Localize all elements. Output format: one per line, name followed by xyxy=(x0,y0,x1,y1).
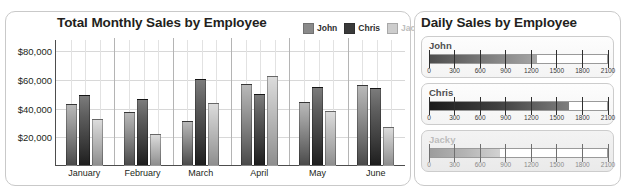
x-axis-tick-label: January xyxy=(55,168,113,178)
x-axis-tick-label: May xyxy=(288,168,346,178)
gauge-tick-label: 1200 xyxy=(524,67,538,74)
legend-swatch-icon xyxy=(303,23,314,34)
gauge-tick xyxy=(505,97,506,115)
bar-jacky-march[interactable] xyxy=(208,103,219,166)
gauge-tick-label: 900 xyxy=(500,161,511,168)
bar-john-january[interactable] xyxy=(66,104,77,166)
x-axis-tick-label: April xyxy=(230,168,288,178)
gauge-tick xyxy=(429,144,430,162)
gauge-tick-label: 0 xyxy=(427,67,431,74)
page-title: Total Monthly Sales by Employee xyxy=(57,15,267,30)
gauge-tick xyxy=(608,50,609,68)
bar-group-may xyxy=(288,40,346,166)
gauge-tick-label: 0 xyxy=(427,114,431,121)
legend-swatch-icon xyxy=(387,23,398,34)
gauge-tick-label: 900 xyxy=(500,114,511,121)
gauge-tick-label: 1200 xyxy=(524,114,538,121)
bar-jacky-june[interactable] xyxy=(383,127,394,166)
gauge-tick xyxy=(454,50,455,68)
gauge-tick-label: 900 xyxy=(500,67,511,74)
gauge-tick xyxy=(454,144,455,162)
gauge-tick-label: 1500 xyxy=(550,114,564,121)
gauge-tick xyxy=(429,97,430,115)
gauge-tick xyxy=(556,97,557,115)
gauge-tick-label: 1800 xyxy=(575,114,589,121)
bar-group-january xyxy=(55,40,113,166)
gauge-tick xyxy=(505,144,506,162)
gauge-card-chris[interactable]: Chris 03006009001200150018002100 xyxy=(421,83,614,125)
gauge-tick-labels-john: 03006009001200150018002100 xyxy=(429,67,608,77)
bar-group-february xyxy=(113,40,171,166)
bar-group-june xyxy=(347,40,405,166)
gauge-tick-label: 600 xyxy=(475,67,486,74)
bar-jacky-april[interactable] xyxy=(267,76,278,166)
gauge-tick xyxy=(608,144,609,162)
y-axis: $20,000$40,000$60,000$80,000 xyxy=(0,40,52,166)
bar-john-march[interactable] xyxy=(182,121,193,166)
bar-jacky-february[interactable] xyxy=(150,134,161,166)
bar-chris-may[interactable] xyxy=(312,87,323,166)
gauge-ticks-john xyxy=(429,50,608,68)
bar-groups xyxy=(55,40,405,166)
bar-chris-march[interactable] xyxy=(195,79,206,166)
gauge-ticks-chris xyxy=(429,97,608,115)
legend-label: Chris xyxy=(358,24,380,33)
gauge-tick-labels-jacky: 03006009001200150018002100 xyxy=(429,161,608,171)
bar-group-april xyxy=(230,40,288,166)
gauge-tick xyxy=(582,50,583,68)
gauge-tick-label: 2100 xyxy=(601,67,615,74)
gauge-tick-label: 1500 xyxy=(550,67,564,74)
gauge-tick xyxy=(582,97,583,115)
y-axis-tick-label: $20,000 xyxy=(0,132,52,143)
gauge-tick-label: 0 xyxy=(427,161,431,168)
gauge-tick xyxy=(454,97,455,115)
gauge-tick xyxy=(556,50,557,68)
x-axis-tick-label: June xyxy=(347,168,405,178)
gauge-panel-title: Daily Sales by Employee xyxy=(421,15,577,30)
gauge-ticks-jacky xyxy=(429,144,608,162)
gauge-tick xyxy=(608,97,609,115)
gauge-tick-label: 300 xyxy=(449,67,460,74)
bar-john-april[interactable] xyxy=(241,84,252,166)
bar-john-june[interactable] xyxy=(357,85,368,166)
bar-chris-april[interactable] xyxy=(254,94,265,166)
bar-group-march xyxy=(172,40,230,166)
gauge-tick-label: 1500 xyxy=(550,161,564,168)
chart-legend: JohnChrisJacky xyxy=(303,23,425,34)
gauge-tick-label: 1200 xyxy=(524,161,538,168)
gauge-tick xyxy=(582,144,583,162)
bar-jacky-may[interactable] xyxy=(325,111,336,166)
x-axis-tick-label: March xyxy=(172,168,230,178)
gauge-tick xyxy=(480,144,481,162)
bar-chris-february[interactable] xyxy=(137,99,148,166)
bar-chris-june[interactable] xyxy=(370,88,381,166)
legend-item-chris[interactable]: Chris xyxy=(344,23,380,34)
gauge-tick-labels-chris: 03006009001200150018002100 xyxy=(429,114,608,124)
gauge-tick xyxy=(556,144,557,162)
legend-label: John xyxy=(317,24,337,33)
bar-chris-january[interactable] xyxy=(79,95,90,166)
gauge-tick xyxy=(480,97,481,115)
gauge-tick xyxy=(505,50,506,68)
bar-jacky-january[interactable] xyxy=(92,119,103,166)
y-axis-tick-label: $80,000 xyxy=(0,46,52,57)
gauge-tick-label: 600 xyxy=(475,114,486,121)
gauge-card-jacky[interactable]: Jacky 03006009001200150018002100 xyxy=(421,130,614,172)
gauge-tick xyxy=(531,97,532,115)
bar-john-may[interactable] xyxy=(299,102,310,166)
gauge-tick-label: 2100 xyxy=(601,114,615,121)
gauge-tick-label: 600 xyxy=(475,161,486,168)
gauge-tick-label: 300 xyxy=(449,114,460,121)
gauge-tick xyxy=(429,50,430,68)
legend-item-john[interactable]: John xyxy=(303,23,337,34)
gauge-tick-label: 300 xyxy=(449,161,460,168)
bar-john-february[interactable] xyxy=(124,112,135,166)
x-axis: JanuaryFebruaryMarchAprilMayJune xyxy=(55,168,405,178)
x-axis-tick-label: February xyxy=(113,168,171,178)
legend-swatch-icon xyxy=(344,23,355,34)
y-axis-tick-label: $60,000 xyxy=(0,75,52,86)
gauge-tick xyxy=(531,50,532,68)
gauge-tick-label: 2100 xyxy=(601,161,615,168)
gauge-tick xyxy=(531,144,532,162)
gauge-card-john[interactable]: John 03006009001200150018002100 xyxy=(421,36,614,78)
